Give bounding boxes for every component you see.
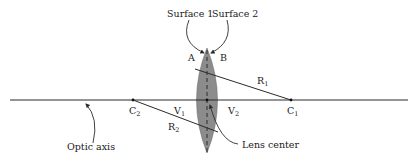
c1-label: C1 (287, 105, 298, 118)
surface1-arrow-icon (187, 20, 204, 53)
c2-label: C2 (129, 105, 140, 118)
v2-label: V2 (227, 105, 239, 118)
lens-center-point (206, 99, 209, 102)
c1-point (290, 99, 293, 102)
optic-axis-arrow-icon (86, 104, 95, 143)
c2-point (132, 99, 135, 102)
surface2-arrow-icon (211, 20, 228, 53)
point-b-label: B (220, 52, 227, 63)
optic-axis-label: Optic axis (67, 141, 115, 152)
surface2-label: Surface 2 (212, 8, 258, 19)
surface1-label: Surface 1 (167, 8, 213, 19)
point-a-label: A (187, 52, 195, 63)
lens-diagram: Surface 1 Surface 2 A B R1 R2 C1 C2 V1 V… (0, 0, 420, 168)
r1-label: R1 (257, 75, 268, 88)
lens-center-label: Lens center (242, 139, 299, 150)
r2-label: R2 (168, 121, 179, 134)
